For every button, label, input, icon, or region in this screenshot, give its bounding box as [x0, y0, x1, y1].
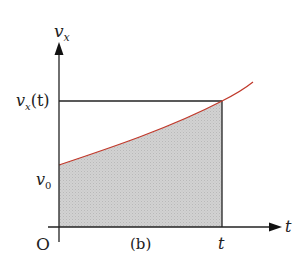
y-axis-label: vx: [54, 21, 71, 44]
t-tick-label: t: [218, 234, 225, 253]
panel-label: (b): [130, 235, 151, 253]
y-axis-arrow-icon: [55, 42, 64, 55]
x-axis-arrow-icon: [269, 223, 282, 232]
vx-t-tick-label: vx(t): [16, 91, 50, 112]
shaded-area-under-curve: [59, 101, 222, 227]
x-axis-label: t: [285, 217, 292, 236]
v0-tick-label: v0: [36, 170, 51, 191]
origin-label: O: [36, 234, 50, 254]
velocity-time-diagram: vx t vx(t) v0 t O (b): [0, 0, 297, 275]
